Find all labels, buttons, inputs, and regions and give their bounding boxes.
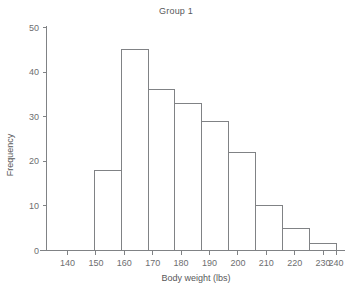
histogram-bar bbox=[121, 50, 148, 251]
x-tick-label-240: 240 bbox=[328, 258, 343, 268]
x-tick-label-190: 190 bbox=[202, 258, 217, 268]
x-tick-label-160: 160 bbox=[117, 258, 132, 268]
histogram-bar bbox=[202, 121, 229, 250]
histogram-bar bbox=[94, 170, 121, 250]
y-axis-title: Frequency bbox=[5, 133, 15, 176]
y-tick-label-20: 20 bbox=[29, 156, 39, 166]
histogram-bar bbox=[255, 206, 282, 251]
histogram-bar bbox=[282, 228, 309, 250]
histogram-bar bbox=[309, 244, 336, 251]
histogram-bar bbox=[148, 90, 175, 251]
x-tick-label-220: 220 bbox=[287, 258, 302, 268]
x-tick-label-210: 210 bbox=[259, 258, 274, 268]
y-tick-label-40: 40 bbox=[29, 67, 39, 77]
histogram-plot: Frequency 0 10 20 30 40 50 bbox=[0, 0, 352, 302]
histogram-bar bbox=[175, 103, 202, 250]
x-tick-label-140: 140 bbox=[60, 258, 75, 268]
histogram-bars bbox=[94, 50, 336, 251]
y-tick-label-50: 50 bbox=[29, 23, 39, 33]
histogram-figure: Group 1 Frequency 0 10 20 30 40 50 bbox=[0, 0, 352, 302]
y-tick-label-10: 10 bbox=[29, 201, 39, 211]
x-axis-title: Body weight (lbs) bbox=[161, 273, 230, 283]
x-axis-ticks: 140 150 160 170 180 190 200 210 220 230 … bbox=[60, 251, 344, 269]
y-tick-label-30: 30 bbox=[29, 112, 39, 122]
x-tick-label-180: 180 bbox=[174, 258, 189, 268]
histogram-bar bbox=[229, 152, 256, 250]
x-tick-label-170: 170 bbox=[145, 258, 160, 268]
y-tick-label-0: 0 bbox=[34, 246, 39, 256]
x-tick-label-200: 200 bbox=[230, 258, 245, 268]
x-tick-label-150: 150 bbox=[88, 258, 103, 268]
y-axis-ticks: 0 10 20 30 40 50 bbox=[29, 23, 47, 256]
